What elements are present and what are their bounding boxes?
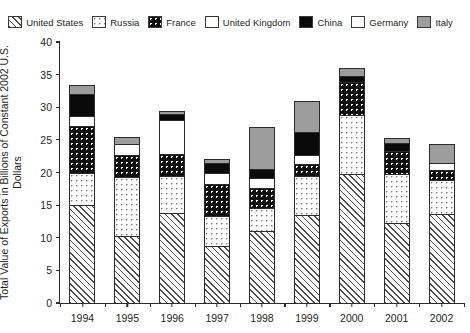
bar-2001[interactable] [384,138,410,303]
bar-segment-russia[interactable] [339,115,365,174]
bar-segment-united-states[interactable] [159,213,185,303]
bar-segment-france[interactable] [204,184,230,215]
bar-segment-united-kingdom[interactable] [249,178,275,188]
y-axis-tick-label: 5 [46,264,52,276]
bar-segment-united-kingdom[interactable] [159,120,185,154]
bar-segment-united-states[interactable] [69,205,95,303]
bar-segment-china[interactable] [159,114,185,119]
y-axis-tick-mark [56,74,60,75]
x-axis-tick-1994: 1994 [71,303,94,324]
legend-item-russia[interactable]: Russia [92,16,139,28]
bar-segment-united-states[interactable] [429,214,455,303]
bar-segment-china[interactable] [204,163,230,172]
x-axis-tick-label: 1994 [71,312,94,324]
bar-segment-italy[interactable] [69,85,95,94]
bar-segment-china[interactable] [384,143,410,151]
bar-segment-italy[interactable] [249,127,275,169]
bar-segment-united-states[interactable] [249,231,275,303]
bar-segment-russia[interactable] [384,174,410,222]
bar-1998[interactable] [249,127,275,303]
y-axis-tick-label: 20 [40,167,52,179]
bar-segment-russia[interactable] [69,173,95,205]
bar-segment-italy[interactable] [204,159,230,164]
bar-segment-russia[interactable] [159,176,185,213]
bar-segment-italy[interactable] [429,144,455,164]
diagonal-hatch-swatch [8,16,22,28]
legend-item-china[interactable]: China [299,16,342,28]
y-axis-tick-mark [56,270,60,271]
x-axis-boundary-tick [464,303,465,307]
y-axis-tick-label: 0 [46,297,52,309]
bar-segment-russia[interactable] [204,216,230,246]
bar-1994[interactable] [69,85,95,303]
bar-1996[interactable] [159,111,185,303]
x-axis-tick-mark [172,303,173,307]
legend-item-germany[interactable]: Germany [351,16,408,28]
bar-segment-united-kingdom[interactable] [204,173,230,185]
x-axis-tick-label: 2001 [385,312,408,324]
bar-segment-china[interactable] [69,94,95,116]
bar-segment-united-states[interactable] [339,174,365,303]
bar-segment-united-states[interactable] [294,215,320,303]
bar-segment-united-kingdom[interactable] [69,116,95,126]
bar-segment-china[interactable] [339,76,365,83]
x-axis-tick-label: 1999 [295,312,318,324]
legend-item-france[interactable]: France [148,16,196,28]
x-axis-tick-mark [261,303,262,307]
x-axis-boundary-tick [60,303,61,307]
bar-1997[interactable] [204,159,230,303]
legend-item-united-kingdom[interactable]: United Kingdom [205,16,291,28]
bar-segment-china[interactable] [294,132,320,155]
bar-segment-russia[interactable] [294,176,320,215]
legend-item-united-states[interactable]: United States [8,16,83,28]
x-axis-tick-mark [217,303,218,307]
x-axis-boundary-tick [105,303,106,307]
bar-1995[interactable] [114,137,140,303]
legend-label: France [166,17,196,28]
bar-segment-italy[interactable] [159,111,185,114]
white-outline-swatch [351,16,365,28]
bar-segment-france[interactable] [384,151,410,174]
bar-segment-russia[interactable] [249,208,275,231]
y-axis-tick-mark [56,172,60,173]
bar-segment-united-kingdom[interactable] [294,155,320,164]
bar-segment-germany[interactable] [429,163,455,170]
legend-label: United Kingdom [223,17,291,28]
bar-segment-united-kingdom[interactable] [114,144,140,155]
bar-segment-france[interactable] [294,164,320,176]
x-axis-tick-mark [441,303,442,307]
bar-segment-united-states[interactable] [114,236,140,303]
legend-item-italy[interactable]: Italy [417,16,452,28]
y-axis-tick-mark [56,41,60,42]
bar-segment-united-states[interactable] [384,223,410,303]
bar-segment-italy[interactable] [384,138,410,143]
bar-segment-italy[interactable] [339,68,365,76]
black-swatch [299,16,313,28]
chart-legend: United StatesRussiaFranceUnited KingdomC… [0,12,470,32]
bar-2000[interactable] [339,68,365,303]
bar-segment-france[interactable] [249,188,275,209]
plot-area: 0510152025303540199419951996199719981999… [59,42,464,304]
bar-segment-russia[interactable] [114,177,140,236]
x-axis-boundary-tick [419,303,420,307]
plot-inner [60,42,464,303]
x-axis-tick-mark [351,303,352,307]
bar-segment-france[interactable] [159,154,185,176]
x-axis-tick-label: 1996 [161,312,184,324]
bar-segment-china[interactable] [249,169,275,178]
bar-segment-italy[interactable] [114,137,140,144]
bar-segment-france[interactable] [429,170,455,180]
bar-segment-united-states[interactable] [204,246,230,303]
black-dots-swatch [148,16,162,28]
bar-1999[interactable] [294,101,320,303]
bar-segment-russia[interactable] [429,180,455,214]
bar-segment-france[interactable] [69,126,95,173]
bar-segment-france[interactable] [339,82,365,115]
bar-segment-italy[interactable] [294,101,320,132]
x-axis-tick-mark [127,303,128,307]
bar-2002[interactable] [429,144,455,303]
x-axis-tick-mark [306,303,307,307]
bar-segment-france[interactable] [114,155,140,177]
legend-label: Italy [435,17,452,28]
y-axis-tick-mark [56,205,60,206]
